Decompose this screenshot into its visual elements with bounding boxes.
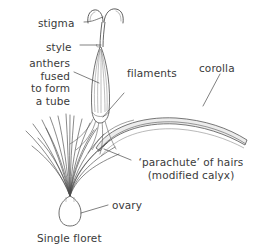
ovary-shape (59, 196, 81, 226)
corolla-shape (92, 118, 247, 156)
anther-tube-shape (91, 44, 109, 123)
style-shape (100, 22, 105, 47)
single-floret-diagram: stigma style anthers fused to form a tub… (0, 0, 253, 252)
leader-ovary (81, 205, 108, 213)
label-parachute-of-hairs: ‘parachute’ of hairs (modified calyx) (135, 156, 247, 181)
label-ovary: ovary (112, 199, 142, 212)
leader-stigma (84, 17, 103, 22)
pappus-hairs (26, 114, 119, 196)
leader-parachute (104, 149, 131, 160)
label-style: style (46, 41, 72, 54)
label-stigma: stigma (38, 17, 74, 30)
floret-illustration (0, 0, 253, 252)
label-corolla: corolla (199, 62, 235, 75)
label-filaments: filaments (127, 67, 177, 80)
leader-corolla (203, 74, 220, 106)
figure-caption: Single floret (37, 232, 102, 245)
label-anthers-fused-to-form-a-tube: anthers fused to form a tube (8, 57, 70, 107)
